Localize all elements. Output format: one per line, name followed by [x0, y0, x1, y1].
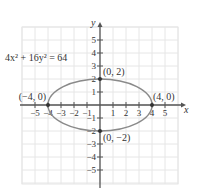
point-label: (0, 2) — [103, 66, 125, 78]
svg-text:4: 4 — [92, 48, 97, 58]
svg-text:−4: −4 — [86, 152, 96, 162]
svg-text:5: 5 — [92, 35, 97, 45]
point-label: (0, −2) — [103, 132, 130, 144]
svg-text:5: 5 — [163, 108, 168, 118]
svg-text:2: 2 — [124, 108, 129, 118]
svg-text:−3: −3 — [56, 108, 66, 118]
svg-text:−5: −5 — [86, 165, 96, 175]
svg-text:−1: −1 — [86, 113, 96, 123]
svg-text:−3: −3 — [86, 139, 96, 149]
axes — [20, 22, 186, 188]
point-marker — [150, 103, 154, 107]
y-axis-label: y — [90, 17, 96, 28]
point-marker — [46, 103, 50, 107]
point-marker — [98, 129, 102, 133]
svg-text:−5: −5 — [30, 108, 40, 118]
ellipse-graph: −5−4−3−2−112345−5−4−3−2−112345 (0, 2)(0,… — [0, 0, 199, 193]
svg-text:1: 1 — [92, 87, 97, 97]
svg-text:−2: −2 — [69, 108, 79, 118]
point-label: (4, 0) — [153, 91, 175, 103]
svg-text:3: 3 — [137, 108, 142, 118]
svg-text:4: 4 — [150, 108, 155, 118]
svg-text:1: 1 — [111, 108, 116, 118]
svg-text:3: 3 — [92, 61, 97, 71]
point-marker — [98, 77, 102, 81]
x-axis-label: x — [183, 104, 189, 115]
point-label: (−4, 0) — [19, 91, 46, 103]
equation-label: 4x² + 16y² = 64 — [5, 52, 67, 63]
